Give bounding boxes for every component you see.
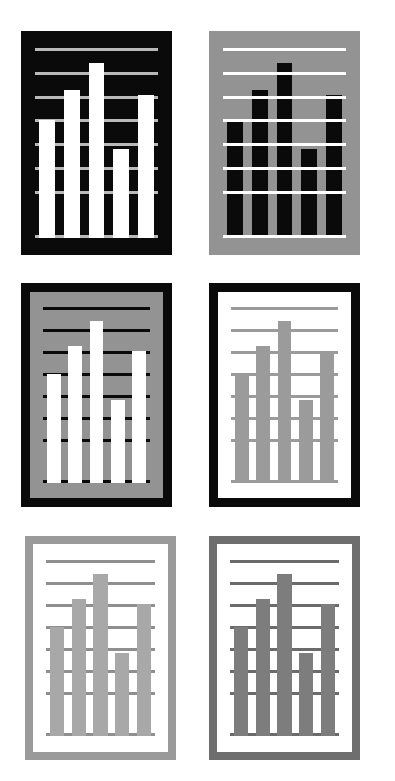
bar-4[interactable]	[299, 653, 313, 736]
gridline	[223, 167, 346, 170]
chart-card-grey-card-black-bars[interactable]	[209, 31, 360, 255]
bar-3[interactable]	[93, 574, 107, 736]
chart-card-background	[30, 292, 163, 498]
bar-4[interactable]	[115, 653, 129, 736]
icon-variation-grid	[0, 0, 395, 781]
bar-5[interactable]	[321, 604, 335, 736]
chart-card-background	[218, 292, 351, 498]
bar-4[interactable]	[113, 149, 129, 238]
gridline	[223, 235, 346, 238]
plot-area	[43, 307, 150, 483]
bar-4[interactable]	[299, 400, 313, 483]
chart-card-background	[209, 31, 360, 255]
gridline	[223, 48, 346, 51]
bar-5[interactable]	[137, 604, 151, 736]
bar-3[interactable]	[278, 321, 292, 483]
bar-2[interactable]	[72, 599, 86, 736]
bar-5[interactable]	[138, 95, 154, 238]
bar-1[interactable]	[39, 120, 55, 238]
chart-card-dark-grey-border-white-card-grey-bars[interactable]	[209, 536, 360, 760]
plot-area	[223, 48, 346, 238]
bar-series	[46, 560, 155, 736]
bar-3[interactable]	[89, 63, 105, 238]
bar-series	[230, 560, 339, 736]
bar-1[interactable]	[47, 374, 61, 483]
gridline	[223, 143, 346, 146]
bar-1[interactable]	[234, 627, 248, 736]
chart-card-background	[217, 544, 352, 752]
gridline	[223, 191, 346, 194]
bar-series	[43, 307, 150, 483]
gridline	[223, 119, 346, 122]
bar-2[interactable]	[68, 346, 82, 483]
plot-area	[231, 307, 338, 483]
bar-series	[35, 48, 158, 238]
gridline	[223, 72, 346, 75]
gridline	[223, 96, 346, 99]
bar-5[interactable]	[132, 351, 146, 483]
plot-area	[230, 560, 339, 736]
bar-2[interactable]	[256, 599, 270, 736]
plot-area	[35, 48, 158, 238]
bar-2[interactable]	[256, 346, 270, 483]
bar-5[interactable]	[320, 351, 334, 483]
chart-card-black-card-white-bars[interactable]	[21, 31, 172, 255]
bar-1[interactable]	[50, 627, 64, 736]
plot-area	[46, 560, 155, 736]
chart-card-black-border-grey-card-white-bars[interactable]	[21, 283, 172, 507]
bar-2[interactable]	[64, 90, 80, 238]
bar-3[interactable]	[277, 574, 291, 736]
bar-4[interactable]	[111, 400, 125, 483]
gridlines	[223, 48, 346, 238]
chart-card-black-border-white-card-grey-bars[interactable]	[209, 283, 360, 507]
bar-1[interactable]	[235, 374, 249, 483]
bar-3[interactable]	[90, 321, 104, 483]
chart-card-background	[33, 544, 168, 752]
bar-series	[231, 307, 338, 483]
chart-card-light-grey-border-white-card-grey-bars[interactable]	[25, 536, 176, 760]
chart-card-background	[21, 31, 172, 255]
